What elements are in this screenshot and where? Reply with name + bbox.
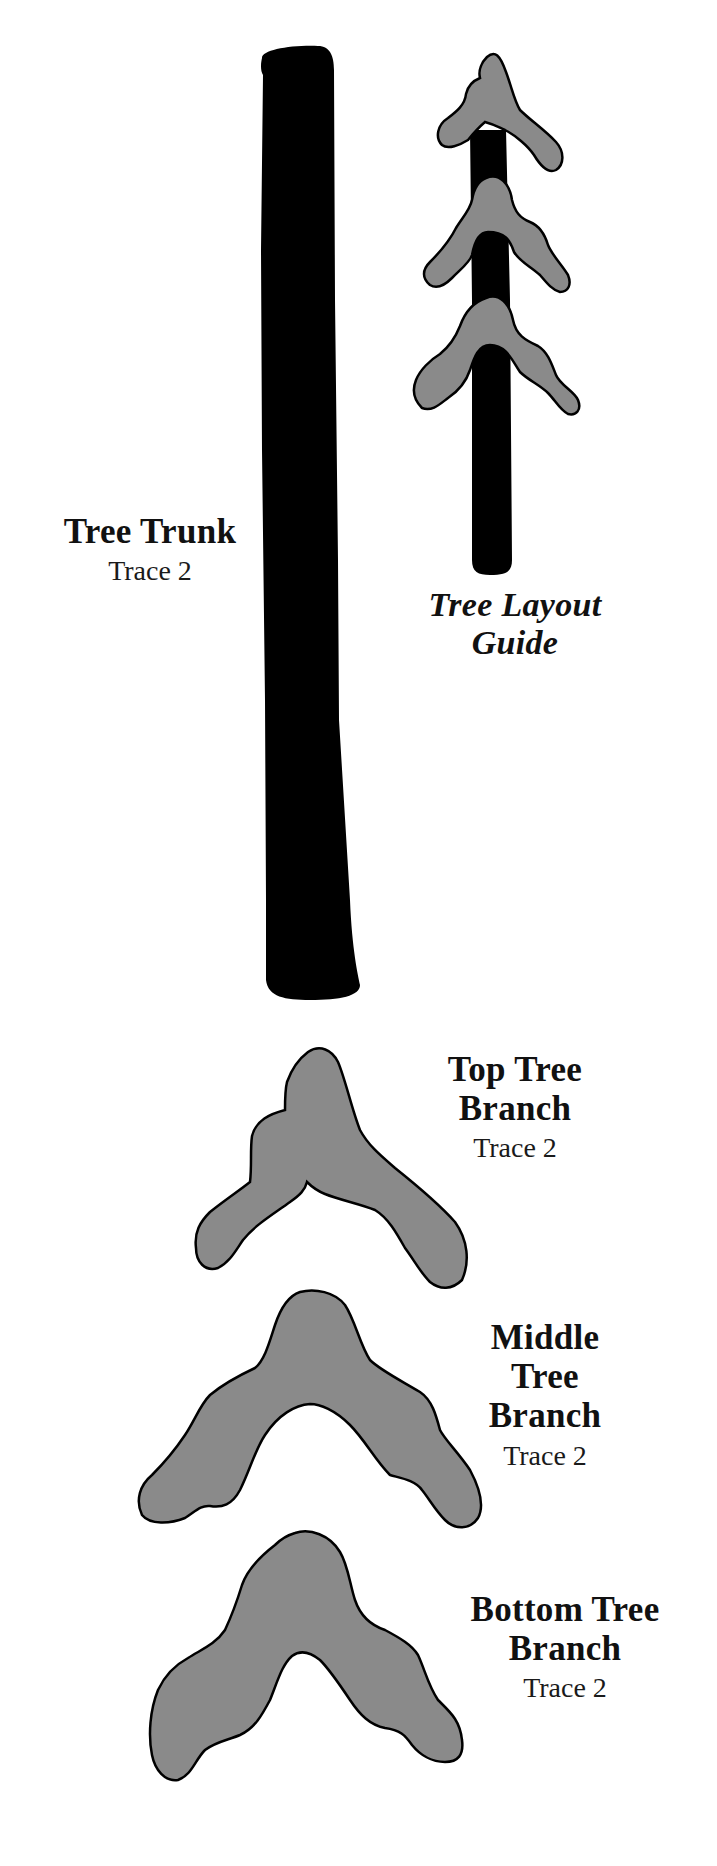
template-artwork (0, 0, 717, 1866)
top-branch-instruction: Trace 2 (405, 1132, 625, 1163)
middle-tree-branch-label: Middle Tree Branch Trace 2 (470, 1318, 620, 1471)
tree-trunk-label: Tree Trunk Trace 2 (20, 512, 280, 587)
tree-layout-guide-label: Tree Layout Guide (400, 586, 630, 662)
layout-guide-title-line1: Tree Layout (400, 586, 630, 624)
bottom-branch-title-line1: Bottom Tree (430, 1590, 700, 1629)
middle-branch-instruction: Trace 2 (470, 1440, 620, 1471)
bottom-tree-branch-shape (150, 1531, 462, 1780)
middle-branch-title-line2: Tree (470, 1357, 620, 1396)
bottom-branch-title-line2: Branch (430, 1629, 700, 1668)
layout-guide-title-line2: Guide (400, 624, 630, 662)
top-tree-branch-label: Top Tree Branch Trace 2 (405, 1050, 625, 1164)
middle-tree-branch-shape (139, 1291, 481, 1528)
bottom-tree-branch-label: Bottom Tree Branch Trace 2 (430, 1590, 700, 1704)
tree-template-page: Tree Trunk Trace 2 Tree Layout Guide Top… (0, 0, 717, 1866)
tree-trunk-instruction: Trace 2 (20, 555, 280, 586)
top-branch-title-line1: Top Tree (405, 1050, 625, 1089)
top-branch-title-line2: Branch (405, 1089, 625, 1128)
tree-trunk-title: Tree Trunk (20, 512, 280, 551)
bottom-branch-instruction: Trace 2 (430, 1672, 700, 1703)
middle-branch-title-line3: Branch (470, 1396, 620, 1435)
middle-branch-title-line1: Middle (470, 1318, 620, 1357)
